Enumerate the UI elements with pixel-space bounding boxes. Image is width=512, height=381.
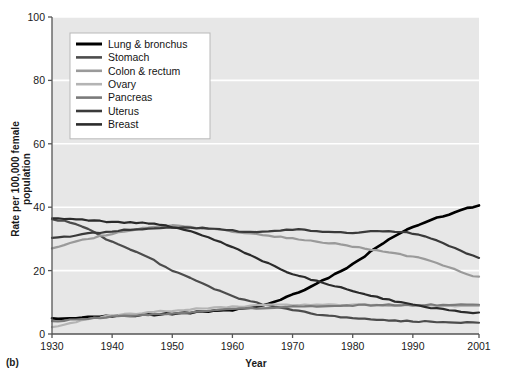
- y-tick-label: 60: [33, 138, 45, 150]
- y-tick-label: 100: [27, 11, 45, 23]
- chart-legend: Lung & bronchusStomachColon & rectumOvar…: [70, 33, 210, 139]
- legend-label-ovary: Ovary: [108, 78, 137, 90]
- x-tick-label: 1970: [281, 340, 305, 352]
- x-tick-label: 2001: [467, 340, 491, 352]
- x-tick-label: 1940: [100, 340, 124, 352]
- x-tick-label: 1950: [161, 340, 185, 352]
- y-tick-label: 40: [33, 201, 45, 213]
- y-axis-title: Rate per 100,000 female population: [10, 99, 32, 259]
- y-tick-label: 0: [39, 328, 45, 340]
- panel-label: (b): [6, 357, 19, 368]
- x-tick-label: 1990: [401, 340, 425, 352]
- x-axis-title: Year: [0, 358, 512, 369]
- x-tick-label: 1980: [341, 340, 365, 352]
- legend-label-breast: Breast: [108, 118, 138, 130]
- y-tick-label: 20: [33, 265, 45, 277]
- legend-label-pancreas: Pancreas: [108, 91, 152, 103]
- x-tick-label: 1960: [221, 340, 245, 352]
- legend-label-colon-rectum: Colon & rectum: [108, 65, 181, 77]
- line-chart: 0204060801001930194019501960197019801990…: [0, 0, 512, 381]
- figure-panel: 0204060801001930194019501960197019801990…: [0, 0, 512, 381]
- legend-label-lung-bronchus: Lung & bronchus: [108, 38, 187, 50]
- x-tick-label: 1930: [40, 340, 64, 352]
- y-tick-label: 80: [33, 74, 45, 86]
- legend-label-stomach: Stomach: [108, 51, 150, 63]
- legend-label-uterus: Uterus: [108, 105, 139, 117]
